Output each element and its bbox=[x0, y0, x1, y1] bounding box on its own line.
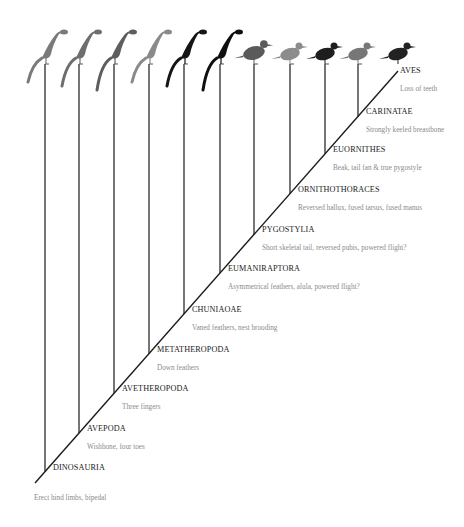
clade-name-metatheropoda: METATHEROPODA bbox=[157, 345, 230, 354]
clade-labels: DINOSAURIAErect hind limbs, bipedalAVEPO… bbox=[34, 66, 444, 502]
clade-trait-chuniaoae: Vaned feathers, nest brooding bbox=[192, 324, 278, 332]
cladogram: DINOSAURIAErect hind limbs, bipedalAVEPO… bbox=[0, 0, 464, 527]
clade-trait-avetheropoda: Three fingers bbox=[122, 403, 161, 411]
clade-name-carinatae: CARINATAE bbox=[366, 107, 413, 116]
clade-name-eumaniraptora: EUMANIRAPTORA bbox=[228, 264, 300, 273]
stilt-icon bbox=[379, 43, 416, 65]
clade-name-dinosauria: DINOSAURIA bbox=[53, 463, 105, 472]
clade-name-ornithothoraces: ORNITHOTHORACES bbox=[298, 185, 380, 194]
feathered-coelurosaur-icon bbox=[132, 30, 172, 83]
clade-trait-ornithothoraces: Reversed hallux, fused tarsus, fused man… bbox=[298, 204, 422, 212]
clade-name-pygostylia: PYGOSTYLIA bbox=[262, 225, 314, 234]
clade-trait-euornithes: Beak, tail fan & true pygostyle bbox=[333, 164, 422, 172]
clade-name-avetheropoda: AVETHEROPODA bbox=[122, 384, 189, 393]
early-theropod-icon bbox=[62, 30, 102, 87]
clade-name-avepoda: AVEPODA bbox=[87, 424, 126, 433]
clade-trait-dinosauria: Erect hind limbs, bipedal bbox=[34, 494, 106, 502]
clade-trait-pygostylia: Short skeletal tail, reversed pubis, pow… bbox=[262, 244, 407, 252]
branches bbox=[35, 64, 398, 483]
clade-trait-avepoda: Wishbone, four toes bbox=[87, 443, 145, 451]
pigeon-icon bbox=[234, 40, 273, 64]
clade-trait-aves: Loss of teeth bbox=[400, 85, 438, 93]
clade-name-aves: AVES bbox=[400, 66, 421, 75]
clade-name-chuniaoae: CHUNIAOAE bbox=[192, 305, 242, 314]
clade-name-euornithes: EUORNITHES bbox=[333, 145, 386, 154]
magpie-icon bbox=[306, 43, 343, 65]
tern-icon bbox=[339, 43, 376, 65]
basal-dinosaur-icon bbox=[28, 30, 68, 83]
pennaraptoran-icon bbox=[167, 30, 207, 87]
gull-icon bbox=[271, 43, 308, 65]
clade-trait-metatheropoda: Down feathers bbox=[157, 364, 199, 372]
main-stem-line bbox=[35, 71, 398, 483]
clade-trait-eumaniraptora: Asymmetrical feathers, alula, powered fl… bbox=[228, 283, 360, 291]
paravian-icon bbox=[203, 30, 243, 91]
clade-trait-carinatae: Strongly keeled breastbone bbox=[366, 126, 444, 134]
